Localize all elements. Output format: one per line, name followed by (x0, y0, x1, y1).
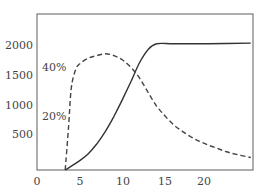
x-tick-15: 15 (158, 175, 172, 188)
dashed-series-line (65, 54, 251, 170)
y-tick-2000: 2000 (5, 39, 33, 52)
annotation-20-percent: 20% (42, 110, 66, 123)
x-tick-20: 20 (197, 175, 211, 188)
plot-frame (37, 14, 253, 170)
solid-series-line (65, 43, 251, 170)
x-tick-10: 10 (116, 175, 130, 188)
annotation-40-percent: 40% (42, 61, 66, 74)
y-tick-500: 500 (12, 128, 33, 141)
y-tick-1000: 1000 (5, 99, 33, 112)
line-chart: 2000 1500 1000 500 0 5 10 15 20 40% 20% (0, 0, 268, 194)
x-tick-0: 0 (34, 175, 41, 188)
y-tick-1500: 1500 (5, 69, 33, 82)
x-tick-5: 5 (77, 175, 84, 188)
